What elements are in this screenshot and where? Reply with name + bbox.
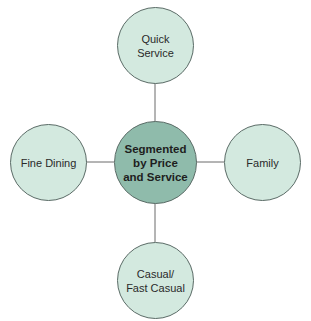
node-label: Quick Service [137,32,174,60]
node-quick-service: Quick Service [117,7,194,84]
node-label: Casual/ Fast Casual [126,267,185,295]
node-center-segmented: Segmented by Price and Service [114,121,197,204]
node-label: Fine Dining [21,156,77,170]
center-label: Segmented by Price and Service [123,142,188,184]
node-fine-dining: Fine Dining [10,124,87,201]
node-casual-fast-casual: Casual/ Fast Casual [117,242,194,319]
node-family: Family [224,124,301,201]
node-label: Family [246,156,278,170]
